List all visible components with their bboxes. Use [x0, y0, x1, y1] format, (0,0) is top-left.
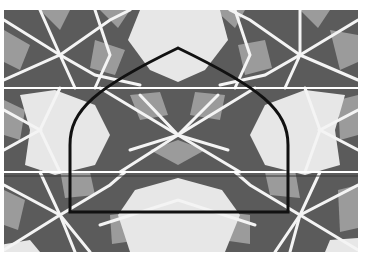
tiling-figure — [0, 0, 367, 256]
pattern-layer — [0, 10, 358, 252]
